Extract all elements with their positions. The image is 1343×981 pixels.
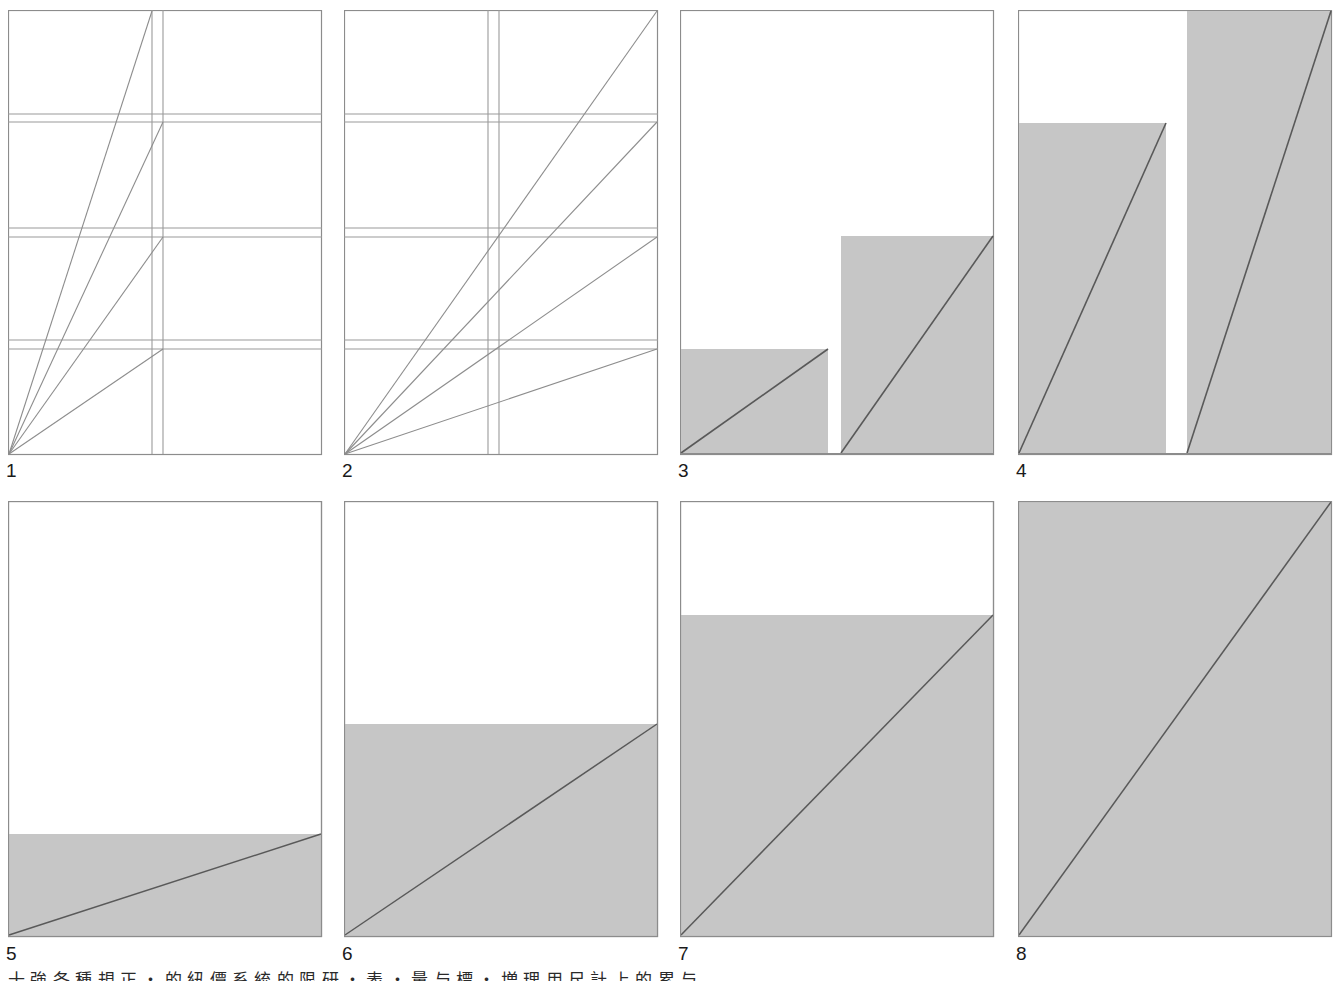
panel-2-drawing (344, 10, 659, 456)
panel-2 (344, 10, 659, 456)
panel-7 (680, 501, 995, 938)
panel-4 (1018, 10, 1333, 456)
panel-4-label: 4 (1016, 461, 1027, 480)
panel-7-label: 7 (678, 944, 689, 963)
panel-8-drawing (1018, 501, 1333, 938)
panel-1 (8, 10, 323, 456)
panel-2-label: 2 (342, 461, 353, 480)
panel-3-drawing (680, 10, 995, 456)
panel-3-label: 3 (678, 461, 689, 480)
figure-caption: 十 強 各 種 規 正 ・ 的 紐 價 系 統 的 限 研 ・ 表 ・ 量 与 … (8, 966, 1338, 981)
panel-7-drawing (680, 501, 995, 938)
panel-4-bar-left (1019, 123, 1166, 453)
panel-3-bar-right (841, 236, 993, 453)
panel-6-label: 6 (342, 944, 353, 963)
panel-3-bar-left (681, 349, 828, 453)
panel-3 (680, 10, 995, 456)
panel-4-drawing (1018, 10, 1333, 456)
panel-5 (8, 501, 323, 938)
figure-sheet: 1 2 (0, 0, 1343, 981)
panel-8 (1018, 501, 1333, 938)
panel-1-label: 1 (6, 461, 17, 480)
panel-6 (344, 501, 659, 938)
panel-5-drawing (8, 501, 323, 938)
panel-8-label: 8 (1016, 944, 1027, 963)
panel-1-drawing (8, 10, 323, 456)
panel-5-label: 5 (6, 944, 17, 963)
panel-6-drawing (344, 501, 659, 938)
panel-4-bar-right (1187, 11, 1331, 453)
